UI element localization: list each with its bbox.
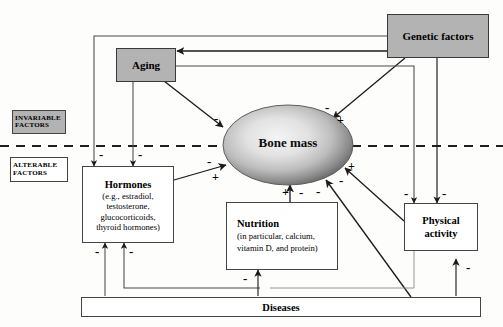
sign-aging-hormones-minus: - <box>138 148 142 161</box>
sign-physical-bone-minus: - <box>339 174 343 187</box>
hormones-detail-line4: thyroid hormones) <box>96 222 160 232</box>
sign-diseases-hormones-minus-right: - <box>129 245 133 258</box>
physical-activity-label-line2: activity <box>424 227 457 240</box>
sign-genetic-physical-minus: - <box>442 187 446 200</box>
sign-diseases-hormones-minus-left: - <box>95 245 99 258</box>
hormones-detail-line3: glucocorticoids, <box>100 212 155 222</box>
node-nutrition[interactable]: Nutrition (in particular, calcium, vitam… <box>226 202 338 270</box>
edge-physical-activity-to-bone-mass <box>345 168 404 221</box>
sign-physical-bone-plus: + <box>348 160 355 172</box>
legend-alterable-line2: FACTORS <box>9 170 69 177</box>
bone-mass-determinants-diagram: INVARIABLE FACTORS ALTERABLE FACTORS Gen… <box>0 0 503 327</box>
sign-genetic-hormones-minus: - <box>99 148 103 161</box>
hormones-detail-line2: testosterone, <box>106 201 149 211</box>
sign-diseases-physical-minus: - <box>466 261 470 274</box>
legend-invariable-factors: INVARIABLE FACTORS <box>12 110 66 134</box>
node-diseases[interactable]: Diseases <box>81 297 481 317</box>
sign-genetic-bone-minus: - <box>325 101 329 114</box>
hormones-label: Hormones <box>105 179 152 190</box>
nutrition-detail-line2: vitamin D, and protein) <box>237 243 318 254</box>
diseases-label: Diseases <box>262 302 299 313</box>
physical-activity-label-line1: Physical <box>422 214 459 227</box>
node-physical-activity[interactable]: Physical activity <box>404 203 478 251</box>
edge-genetic-to-bone-mass <box>333 58 405 118</box>
sign-hormones-bone-plus: + <box>212 171 219 183</box>
aging-label: Aging <box>132 59 160 71</box>
nutrition-label: Nutrition <box>237 218 279 229</box>
node-hormones[interactable]: Hormones (e.g., estradiol, testosterone,… <box>82 166 174 243</box>
sign-aging-physical-minus: - <box>404 187 408 200</box>
sign-aging-bone-minus: - <box>214 112 218 125</box>
sign-diseases-nutrition-minus: - <box>243 272 247 285</box>
sign-diseases-bone-minus: - <box>316 185 320 198</box>
edge-diseases-to-bone-mass <box>326 180 411 297</box>
nutrition-detail-line1: (in particular, calcium, <box>237 231 315 242</box>
hormones-detail-line1: (e.g., estradiol, <box>102 191 153 201</box>
legend-alterable-factors: ALTERABLE FACTORS <box>10 157 68 182</box>
node-genetic-factors[interactable]: Genetic factors <box>387 14 489 58</box>
sign-nutrition-bone-plus: + <box>282 186 289 198</box>
node-aging[interactable]: Aging <box>116 48 176 82</box>
genetic-factors-label: Genetic factors <box>402 30 473 42</box>
legend-invariable-line2: FACTORS <box>11 122 67 129</box>
bone-mass-label: Bone mass <box>223 135 353 151</box>
sign-genetic-bone-plus: + <box>337 114 344 126</box>
sign-hormones-bone-minus: - <box>207 155 211 168</box>
sign-nutrition-bone-minus: - <box>299 186 303 199</box>
